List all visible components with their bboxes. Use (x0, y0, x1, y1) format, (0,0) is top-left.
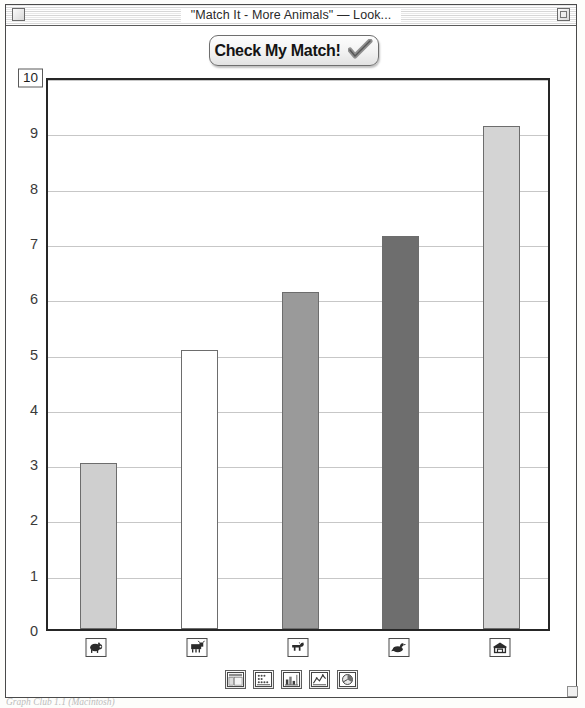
page-corner-mark (567, 686, 578, 697)
picture-graph-icon[interactable] (253, 670, 274, 689)
chart-plot-frame (46, 78, 550, 631)
table-view-icon-glyph (227, 672, 244, 687)
window-title: "Match It - More Animals" — Look... (181, 8, 402, 22)
line-graph-icon-glyph (311, 672, 328, 687)
bar-graph-icon[interactable] (281, 670, 302, 689)
bar-cow[interactable] (181, 350, 218, 629)
duck-icon (390, 640, 407, 655)
checkmark-icon (348, 39, 374, 63)
gridline-9 (48, 135, 548, 136)
bar-pig[interactable] (80, 463, 117, 629)
cow-icon (189, 640, 206, 655)
bar-horse[interactable] (282, 292, 319, 629)
gridline-7 (48, 246, 548, 247)
check-my-match-label: Check My Match! (214, 42, 340, 60)
animal-icon-duck[interactable] (388, 638, 409, 657)
table-view-icon[interactable] (225, 670, 246, 689)
scanned-page: "Match It - More Animals" — Look... Chec… (0, 0, 585, 708)
x-axis-category-buttons (46, 634, 550, 664)
y-tick-label-2: 2 (30, 512, 38, 528)
animal-icon-barn[interactable] (489, 638, 510, 657)
y-tick-label-4: 4 (30, 402, 38, 418)
close-box-icon[interactable] (12, 8, 25, 21)
y-tick-label-5: 5 (30, 347, 38, 363)
horse-icon (290, 640, 307, 655)
y-axis: 987654321010 (6, 78, 46, 631)
line-graph-icon[interactable] (309, 670, 330, 689)
y-tick-label-9: 9 (30, 125, 38, 141)
figure-caption: Graph Club 1.1 (Macintosh) (6, 697, 115, 707)
window-titlebar[interactable]: "Match It - More Animals" — Look... (6, 5, 576, 26)
plot-area (48, 80, 548, 629)
chart-type-toolbar (6, 670, 576, 689)
circle-graph-icon[interactable] (337, 670, 358, 689)
pig-icon (88, 640, 105, 655)
bar-duck[interactable] (382, 236, 419, 629)
y-tick-label-1: 1 (30, 568, 38, 584)
window-content: Check My Match! 987654321010 (6, 26, 576, 697)
y-axis-max-input[interactable]: 10 (18, 69, 43, 88)
animal-icon-horse[interactable] (288, 638, 309, 657)
barn-icon (491, 640, 508, 655)
y-tick-label-3: 3 (30, 457, 38, 473)
gridline-8 (48, 191, 548, 192)
animal-icon-cow[interactable] (187, 638, 208, 657)
bar-barn[interactable] (483, 126, 520, 629)
y-tick-label-6: 6 (30, 291, 38, 307)
circle-graph-icon-glyph (339, 672, 356, 687)
application-window: "Match It - More Animals" — Look... Chec… (5, 4, 577, 698)
bar-graph-icon-glyph (283, 672, 300, 687)
picture-graph-icon-glyph (255, 672, 272, 687)
zoom-box-icon[interactable] (557, 8, 570, 21)
y-tick-label-8: 8 (30, 181, 38, 197)
gridline-10 (48, 80, 548, 81)
check-my-match-button[interactable]: Check My Match! (209, 35, 379, 66)
y-tick-label-7: 7 (30, 236, 38, 252)
y-tick-label-0: 0 (30, 623, 38, 639)
animal-icon-pig[interactable] (86, 638, 107, 657)
